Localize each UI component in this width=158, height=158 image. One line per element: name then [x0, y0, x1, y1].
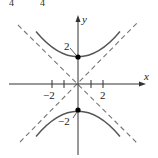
vertex-label-lower: −2	[58, 115, 70, 127]
top-fragment-left: 4	[9, 0, 14, 8]
hyperbola-diagram: 4 4 x y −2 2 2 −2	[0, 0, 158, 158]
x-tick-label-neg2: −2	[43, 89, 55, 101]
vertex-label-upper: 2	[64, 40, 70, 52]
vertex-point-lower	[75, 107, 80, 112]
top-fragment-right: 4	[40, 0, 45, 8]
x-tick-label-2: 2	[100, 89, 106, 101]
y-axis-arrow-icon	[76, 15, 81, 22]
x-axis-arrow-icon	[139, 82, 146, 87]
leader-line-lower	[73, 112, 77, 118]
y-axis-label: y	[81, 13, 87, 25]
leader-line-upper	[70, 48, 76, 55]
x-axis-label: x	[143, 70, 149, 82]
vertex-point-upper	[75, 54, 80, 59]
